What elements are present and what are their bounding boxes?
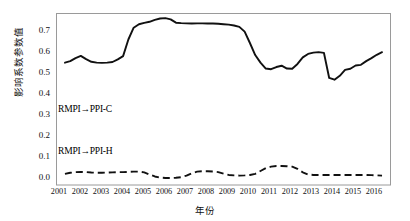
series-label-rmpi-ppi-h: RMPI→PPI-H (58, 146, 113, 156)
plot-frame (57, 14, 391, 186)
chart-figure: 影响系数参数值 年份 0.7 0.6 0.5 0.4 0.3 0.2 0.1 0… (0, 0, 410, 221)
series-line-rmpi-ppi-h (65, 166, 382, 178)
series-label-rmpi-ppi-c: RMPI→PPI-C (58, 104, 112, 114)
series-line-rmpi-ppi-c (65, 18, 382, 80)
